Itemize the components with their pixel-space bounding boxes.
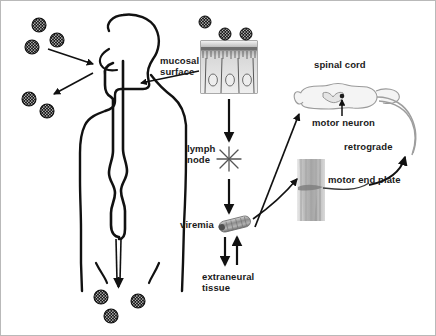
- virus-particle: [50, 33, 64, 47]
- virus-particle: [22, 92, 36, 106]
- virus-particle: [219, 28, 231, 40]
- virus-particle-group-inlet: [22, 18, 93, 118]
- label-lymph-node: lymph node: [187, 143, 223, 165]
- virus-particle: [40, 104, 54, 118]
- virus-particle-group-shed: [94, 290, 145, 323]
- motor-end-plate-glyph: [297, 159, 369, 221]
- label-motor-neuron: motor neuron: [312, 117, 384, 128]
- entry-arrow: [48, 49, 93, 64]
- label-spinal-cord: spinal cord: [314, 59, 378, 70]
- virion-capsule: [217, 215, 251, 234]
- mucosa-inset: [199, 16, 257, 93]
- label-motor-end-plate: motor end plate: [328, 174, 412, 185]
- shedding-arrow: [54, 73, 93, 94]
- virus-particle: [199, 16, 211, 28]
- motor-neuron-dot: [340, 94, 345, 99]
- diagram-figure: mucosal surface lymph node viremia extra…: [0, 0, 436, 336]
- virus-particle: [131, 294, 145, 308]
- label-viremia: viremia: [180, 219, 220, 230]
- virus-particle: [25, 40, 39, 54]
- label-retrograde: retrograde: [344, 141, 406, 152]
- arrow-viremia-to-cord: [255, 114, 299, 227]
- label-mucosal-surface: mucosal surface: [160, 55, 200, 77]
- virus-particle: [32, 18, 46, 32]
- virus-particle: [240, 28, 252, 40]
- virus-particle: [94, 290, 108, 304]
- label-extraneural-tissue: extraneural tissue: [202, 271, 264, 293]
- central-cascade: [217, 99, 252, 265]
- virus-particle: [104, 309, 118, 323]
